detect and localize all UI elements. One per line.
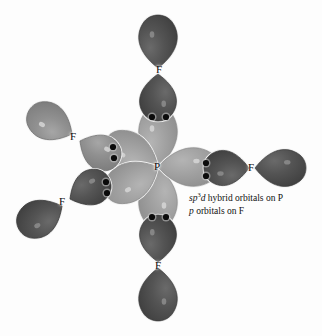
caption-line-2-rest: orbitals on F — [194, 206, 244, 216]
electron-dot-equatorial-upper-left-1 — [110, 144, 116, 150]
atom-label-fluorine-axial-bottom: F — [155, 260, 161, 271]
orbital-diagram-figure: PFFFFF sp3d hybrid orbitals on P p orbit… — [0, 0, 322, 336]
caption-line-1-rest: hybrid orbitals on P — [205, 193, 283, 203]
f-distal-lobe-equatorial-right — [255, 150, 306, 187]
f-proximal-lobe-equatorial-right — [204, 150, 249, 185]
f-proximal-lobe-axial-bottom — [140, 215, 177, 262]
electron-dot-axial-top-1 — [149, 114, 155, 120]
electron-dot-axial-top-2 — [163, 114, 169, 120]
f-proximal-lobe-axial-top — [140, 74, 177, 121]
electron-dot-equatorial-upper-left-2 — [111, 155, 117, 161]
electron-dot-axial-bottom-2 — [163, 214, 169, 220]
caption-line-2: p orbitals on F — [189, 205, 283, 218]
pf5-orbital-overlap-svg — [0, 0, 322, 336]
orbital-caption: sp3d hybrid orbitals on P p orbitals on … — [189, 192, 283, 218]
atom-label-fluorine-equatorial-right: F — [248, 162, 254, 173]
electron-dot-equatorial-right-1 — [203, 160, 209, 166]
atom-label-fluorine-equatorial-upper-left: F — [70, 131, 76, 142]
caption-line-1: sp3d hybrid orbitals on P — [189, 192, 283, 205]
f-distal-lobe-axial-top — [139, 15, 178, 68]
electron-dot-equatorial-lower-left-1 — [103, 179, 109, 185]
atom-label-phosphorus: P — [154, 161, 160, 172]
electron-dot-equatorial-right-2 — [203, 173, 209, 179]
atom-label-fluorine-axial-top: F — [156, 64, 162, 75]
atom-label-fluorine-equatorial-lower-left: F — [59, 196, 65, 207]
f-distal-lobe-axial-bottom — [139, 268, 178, 321]
electron-dot-equatorial-lower-left-2 — [104, 190, 110, 196]
electron-dot-axial-bottom-1 — [149, 214, 155, 220]
